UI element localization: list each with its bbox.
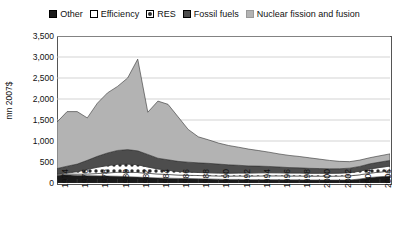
x-axis-tick-label: 1986 [182, 169, 191, 188]
x-axis-tick-label: 1974 [61, 169, 70, 188]
legend-item-label: Nuclear fission and fusion [257, 9, 360, 19]
y-axis-tick-label: 2,500 [14, 74, 54, 83]
stacked-area-plot [57, 36, 390, 183]
legend-swatch-icon [90, 10, 98, 18]
x-axis-tick-label: 1984 [162, 169, 171, 188]
y-axis-tick-label: 3,000 [14, 53, 54, 62]
legend-item-label: Efficiency [101, 9, 139, 19]
x-axis-tick-labels: 1974197619781980198219841986198819901992… [57, 186, 390, 230]
x-axis-tick-label: 1998 [303, 169, 312, 188]
legend-item: Efficiency [90, 9, 139, 19]
x-axis-tick-label: 2006 [384, 169, 393, 188]
y-axis-tick-label: 500 [14, 158, 54, 167]
x-axis-tick-label: 2000 [323, 169, 332, 188]
y-axis-title: mn 2007$ [5, 71, 14, 131]
legend-item: Fossil fuels [183, 9, 239, 19]
y-axis-tick-label: 2,000 [14, 95, 54, 104]
x-axis-tick-label: 1980 [122, 169, 131, 188]
legend-swatch-icon [146, 10, 154, 18]
x-axis-tick-label: 2004 [364, 169, 373, 188]
legend-item: RES [146, 9, 176, 19]
legend-swatch-icon [49, 10, 57, 18]
y-axis-tick-labels: 3,5003,0002,5002,0001,5001,0005000 [14, 30, 54, 190]
chart-legend: OtherEfficiencyRESFossil fuelsNuclear fi… [0, 6, 409, 22]
x-axis-tick-label: 1994 [263, 169, 272, 188]
area-series [57, 59, 390, 169]
legend-item: Other [49, 9, 83, 19]
legend-item-label: Other [60, 9, 83, 19]
legend-item: Nuclear fission and fusion [246, 9, 360, 19]
y-axis-tick-label: 1,500 [14, 116, 54, 125]
x-axis-tick-label: 1990 [222, 169, 231, 188]
legend-dot-icon [148, 12, 152, 16]
legend-item-label: RES [157, 9, 176, 19]
x-axis-tick-label: 1996 [283, 169, 292, 188]
x-axis-tick-label: 1978 [101, 169, 110, 188]
x-axis-tick-label: 1976 [81, 169, 90, 188]
y-axis-tick-label: 3,500 [14, 32, 54, 41]
legend-swatch-icon [246, 10, 254, 18]
y-axis-tick-label: 1,000 [14, 137, 54, 146]
legend-swatch-icon [183, 10, 191, 18]
chart-figure: OtherEfficiencyRESFossil fuelsNuclear fi… [0, 0, 409, 230]
legend-item-label: Fossil fuels [194, 9, 239, 19]
x-axis-tick-label: 1992 [243, 169, 252, 188]
x-axis-tick-label: 1988 [202, 169, 211, 188]
x-axis-tick-label: 2002 [344, 169, 353, 188]
x-axis-tick-label: 1982 [142, 169, 151, 188]
y-axis-tick-label: 0 [14, 179, 54, 188]
